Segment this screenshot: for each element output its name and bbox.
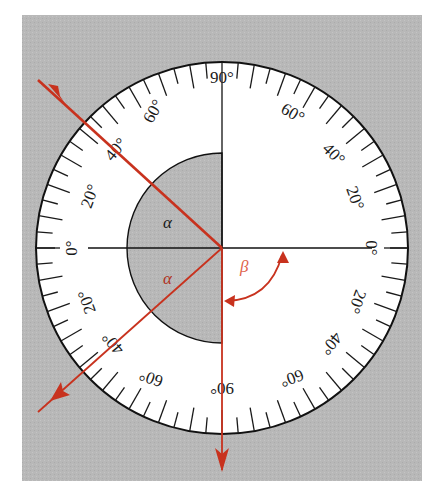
label-left-0: 0° [62,240,81,255]
label-top-90: 90° [210,68,234,87]
incident-angle-label: α [163,213,173,232]
reflected-angle-label: α [163,269,173,288]
refracted-angle-label: β [239,257,249,276]
optics-protractor-diagram: 90° 60° 40° 20° 0° 20° 40° 60° 90° 60° 4… [0,0,433,497]
label-right-0: 0° [362,240,381,255]
